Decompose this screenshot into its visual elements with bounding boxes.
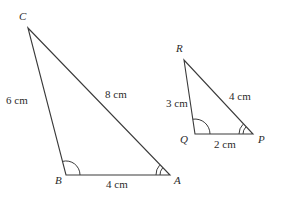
side-bc-length: 6 cm	[6, 94, 28, 106]
side-qr-length: 3 cm	[166, 97, 188, 109]
triangle-abc: C B A 6 cm 8 cm 4 cm	[6, 10, 181, 190]
vertex-r-label: R	[175, 42, 183, 54]
vertex-c-label: C	[19, 10, 27, 22]
vertex-p-label: P	[257, 133, 265, 145]
angle-p-arc-inner	[243, 127, 246, 134]
vertex-a-label: A	[173, 174, 181, 186]
similar-triangles-diagram: C B A 6 cm 8 cm 4 cm R Q P 3 cm 4 cm 2 c…	[0, 0, 284, 200]
side-ca-length: 8 cm	[105, 88, 127, 100]
angle-q-arc	[193, 119, 210, 134]
vertex-b-label: B	[55, 174, 62, 186]
angle-p-arc-outer	[239, 124, 243, 134]
side-ab-length: 4 cm	[106, 178, 128, 190]
triangle-pqr: R Q P 3 cm 4 cm 2 cm	[166, 42, 265, 150]
triangle-abc-outline	[28, 28, 170, 175]
angle-a-arc-inner	[160, 168, 163, 175]
angle-a-arc-outer	[156, 165, 160, 175]
side-qp-length: 2 cm	[214, 138, 236, 150]
side-rp-length: 4 cm	[229, 90, 251, 102]
vertex-q-label: Q	[180, 133, 188, 145]
